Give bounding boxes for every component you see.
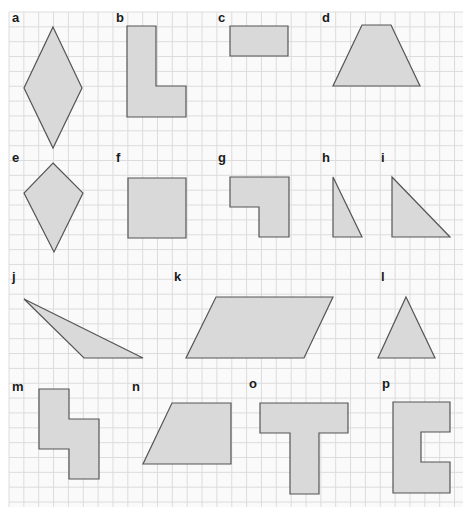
shape-label: c <box>218 10 225 25</box>
shape-label: f <box>116 150 121 165</box>
shape-label: d <box>322 10 330 25</box>
shape-label: p <box>382 376 390 391</box>
shape-label: k <box>174 269 182 284</box>
shape-label: l <box>381 269 385 284</box>
shape-label: b <box>116 10 124 25</box>
shapes-grid-diagram: abcdefghijklmnop <box>0 0 472 515</box>
shape-label: n <box>132 379 140 394</box>
shape-label: a <box>12 10 20 25</box>
shape-label: m <box>12 379 24 394</box>
rectangle-polygon <box>230 26 288 56</box>
square-polygon <box>128 178 186 238</box>
shape-label: h <box>322 150 330 165</box>
shape-label: o <box>249 376 257 391</box>
shape-label: g <box>218 150 226 165</box>
shape-label: e <box>12 150 19 165</box>
shape-label: j <box>11 269 16 284</box>
shape-label: i <box>381 150 385 165</box>
